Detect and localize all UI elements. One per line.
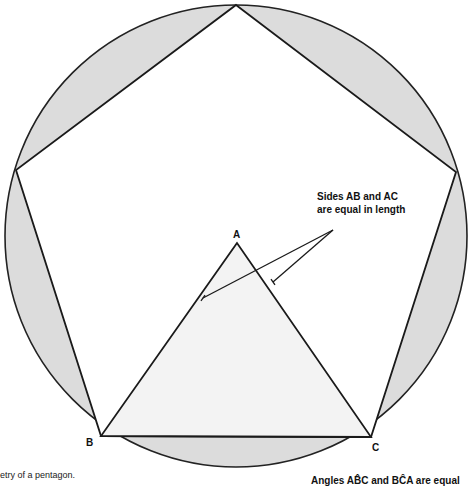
sides-note-line2: are equal in length [317, 204, 405, 215]
figure-caption: etry of a pentagon. [0, 470, 75, 480]
pentagon-symmetry-diagram: A B C Sides AB and AC are equal in lengt… [0, 0, 469, 488]
vertex-label-c: C [372, 442, 379, 453]
angles-note: Angles AB̂C and BĈA are equal [311, 474, 460, 486]
sides-note-line1: Sides AB and AC [317, 191, 398, 202]
vertex-label-a: A [233, 229, 240, 240]
vertex-label-b: B [86, 437, 93, 448]
diagram-canvas: A B C Sides AB and AC are equal in lengt… [0, 0, 469, 488]
